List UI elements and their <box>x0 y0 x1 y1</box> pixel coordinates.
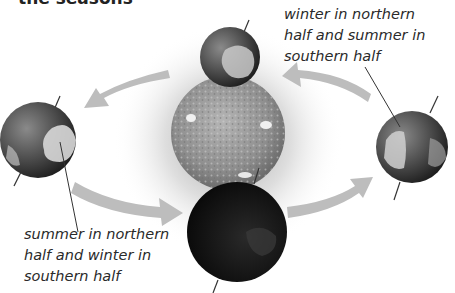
label-line: winter in northern <box>284 4 425 25</box>
sun-icon <box>171 76 285 190</box>
leader-line-top-right <box>365 67 400 127</box>
label-summer-northern: summer in northern half and winter in so… <box>24 224 169 287</box>
label-line: southern half <box>24 266 169 287</box>
label-line: half and winter in <box>24 245 169 266</box>
label-line: summer in northern <box>24 224 169 245</box>
label-line: half and summer in <box>284 25 425 46</box>
earth-right-icon <box>376 96 448 200</box>
earth-left-icon <box>0 96 76 186</box>
label-line: southern half <box>284 46 425 67</box>
diagram-title: the seasons <box>18 0 133 8</box>
label-winter-northern: winter in northern half and summer in so… <box>284 4 425 67</box>
seasons-diagram: the seasons winter in northern half and … <box>0 0 455 293</box>
